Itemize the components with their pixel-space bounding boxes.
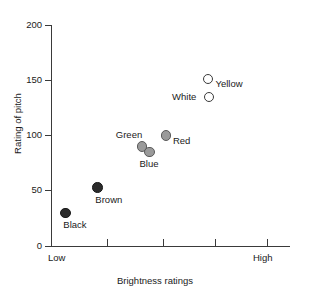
scatter-chart: 200 150 100 50 0 Low High Brightness rat…	[0, 0, 310, 300]
y-tick-label-50: 50	[8, 185, 42, 195]
x-tick-1	[51, 239, 52, 247]
data-point-label-black: Black	[63, 219, 86, 230]
data-point-label-green: Green	[116, 129, 142, 140]
data-point-label-red: Red	[173, 135, 190, 146]
data-point-label-white: White	[172, 91, 196, 102]
y-tick-label-200-wrap: 200	[6, 20, 42, 30]
data-point-label-blue: Blue	[139, 158, 158, 169]
y-tick-label-50-wrap: 50	[6, 185, 42, 195]
y-tick-150	[45, 80, 52, 81]
data-point-brown	[92, 182, 102, 192]
y-tick-50	[45, 190, 52, 191]
data-point-yellow	[203, 74, 213, 84]
x-axis-high-label: High	[253, 252, 273, 263]
x-tick-2	[107, 239, 108, 247]
y-tick-100	[45, 135, 52, 136]
data-point-label-brown: Brown	[95, 194, 122, 205]
x-tick-3	[163, 239, 164, 247]
data-point-white	[204, 92, 214, 102]
x-axis-low-label: Low	[48, 252, 65, 263]
y-tick-label-0-wrap: 0	[6, 241, 42, 251]
data-point-blue	[144, 147, 154, 157]
data-point-black	[60, 208, 70, 218]
y-tick-label-0: 0	[8, 241, 42, 251]
x-axis-title: Brightness ratings	[0, 275, 310, 286]
x-axis-line	[51, 246, 290, 247]
data-point-red	[161, 130, 171, 140]
data-point-label-yellow: Yellow	[215, 78, 242, 89]
x-tick-5	[267, 239, 268, 247]
y-tick-label-200: 200	[8, 20, 42, 30]
y-tick-200	[45, 25, 52, 26]
y-axis-title: Rating of pitch	[12, 74, 23, 174]
x-tick-4	[215, 239, 216, 247]
